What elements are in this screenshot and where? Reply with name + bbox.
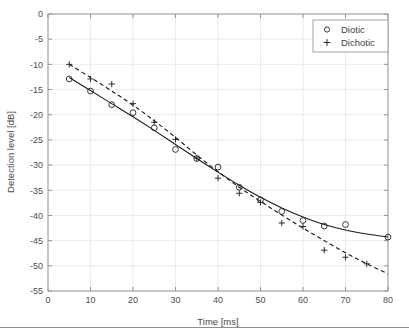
y-tick-label: -40 bbox=[30, 211, 43, 221]
x-tick-label: 50 bbox=[255, 295, 265, 305]
x-tick-label: 60 bbox=[298, 295, 308, 305]
y-tick-label: -20 bbox=[30, 110, 43, 120]
x-tick-label: 0 bbox=[45, 295, 50, 305]
footer-divider bbox=[0, 327, 409, 328]
x-tick-label: 80 bbox=[383, 295, 393, 305]
y-tick-label: -5 bbox=[35, 34, 43, 44]
chart-legend[interactable]: Diotic Dichotic bbox=[313, 20, 388, 52]
y-tick-label: -30 bbox=[30, 160, 43, 170]
x-tick-label: 30 bbox=[170, 295, 180, 305]
y-tick-label: -15 bbox=[30, 85, 43, 95]
y-tick-label: -45 bbox=[30, 236, 43, 246]
figure-container: 01020304050607080 0-5-10-15-20-25-30-35-… bbox=[0, 0, 409, 336]
y-tick-label: -50 bbox=[30, 261, 43, 271]
legend-item-diotic: Diotic bbox=[341, 24, 365, 35]
x-tick-label: 40 bbox=[213, 295, 223, 305]
x-tick-label: 10 bbox=[85, 295, 95, 305]
y-tick-label: -25 bbox=[30, 135, 43, 145]
x-tick-label: 20 bbox=[128, 295, 138, 305]
y-tick-label: 0 bbox=[38, 9, 43, 19]
y-tick-label: -55 bbox=[30, 286, 43, 296]
x-tick-label: 70 bbox=[340, 295, 350, 305]
detection-level-scatter-chart: 01020304050607080 0-5-10-15-20-25-30-35-… bbox=[0, 0, 409, 336]
y-tick-label: -10 bbox=[30, 60, 43, 70]
legend-item-dichotic: Dichotic bbox=[341, 37, 375, 48]
y-axis-title: Detection level [dB] bbox=[5, 111, 16, 193]
x-axis-title: Time [ms] bbox=[197, 316, 238, 327]
y-tick-label: -35 bbox=[30, 186, 43, 196]
